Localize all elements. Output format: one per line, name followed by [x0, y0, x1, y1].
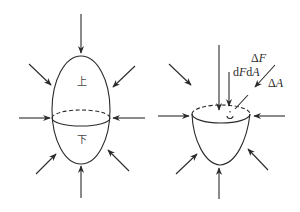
arrow-upper-left: [169, 64, 191, 85]
arrow-upper-right: [113, 66, 135, 87]
label-dF-dA: dFdA: [233, 65, 260, 79]
left-ellipsoid-figure: 上 下: [19, 14, 145, 198]
diagram-canvas: 上 下: [0, 0, 300, 212]
equator-front: [52, 118, 110, 126]
label-delta-a: ΔA: [268, 76, 284, 90]
upper-part-label: 上: [77, 76, 87, 87]
rim-back-dashed: [192, 105, 250, 114]
area-element-mark: [227, 116, 233, 119]
label-delta-f: ΔF: [251, 51, 267, 65]
arrow-lower-right: [248, 149, 268, 170]
arrow-lower-right: [108, 150, 129, 171]
arrow-lower-left: [176, 154, 197, 174]
diagram-svg: 上 下: [0, 0, 300, 212]
lower-part-label: 下: [77, 134, 87, 145]
ellipsoid-outline: [52, 56, 110, 164]
arrow-lower-left: [36, 154, 56, 174]
equator-back-dashed: [52, 110, 110, 118]
cup-outline: [192, 114, 250, 165]
leader-delta-a: [235, 95, 248, 109]
right-cup-figure: ΔF dFdA ΔA: [158, 45, 285, 199]
arrow-upper-left: [29, 64, 51, 85]
rim-front: [192, 114, 250, 123]
